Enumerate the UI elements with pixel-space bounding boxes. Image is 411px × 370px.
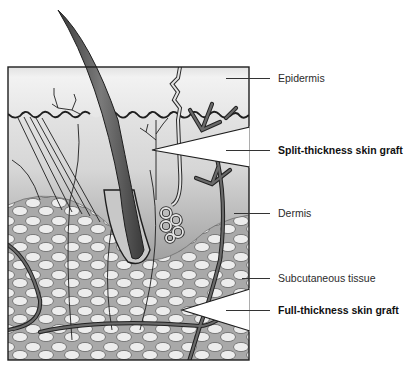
full-thickness-leader <box>226 310 270 311</box>
epidermis-layer <box>8 67 249 118</box>
split-thickness-leader <box>226 150 270 151</box>
label-dermis: Dermis <box>278 207 311 219</box>
label-epidermis: Epidermis <box>278 72 325 84</box>
dermis-leader <box>234 213 270 214</box>
label-subcutaneous-tissue: Subcutaneous tissue <box>278 272 375 284</box>
label-full-thickness-skin-graft: Full-thickness skin graft <box>278 304 399 316</box>
epidermis-leader <box>226 78 270 79</box>
subcutaneous-leader <box>242 278 270 279</box>
label-split-thickness-skin-graft: Split-thickness skin graft <box>278 144 403 156</box>
